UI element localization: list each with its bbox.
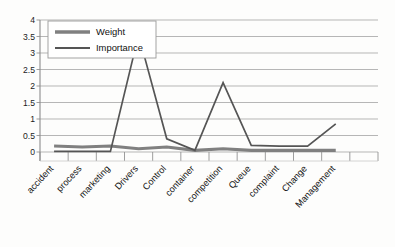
y-axis-tick-label: 4 bbox=[30, 15, 35, 25]
y-axis-tick-label: 1 bbox=[30, 114, 35, 124]
x-axis-category-label: Drivers bbox=[113, 163, 140, 191]
x-axis-category-text: marketing bbox=[77, 164, 112, 200]
legend-label-importance: Importance bbox=[96, 42, 143, 53]
x-axis-category-label: Control bbox=[141, 164, 169, 192]
x-axis-category-text: Queue bbox=[227, 164, 253, 191]
legend-label-weight: Weight bbox=[96, 26, 125, 37]
x-axis-category-label: Queue bbox=[227, 164, 253, 191]
line-chart: 43.532.521.510.50accidentprocessmarketin… bbox=[0, 0, 395, 247]
y-axis-tick-label: 1.5 bbox=[23, 98, 35, 108]
y-axis-tick-label: 2 bbox=[30, 81, 35, 91]
x-axis-category-text: complaint bbox=[247, 163, 281, 199]
x-axis-category-label: marketing bbox=[77, 164, 112, 200]
y-axis-tick-label: 3 bbox=[30, 48, 35, 58]
y-axis-tick-label: 3.5 bbox=[23, 32, 35, 42]
chart-canvas: 43.532.521.510.50accidentprocessmarketin… bbox=[0, 0, 395, 247]
y-axis-tick-label: 0.5 bbox=[23, 131, 35, 141]
x-axis-category-text: accident bbox=[25, 163, 56, 195]
y-axis-tick-label: 0 bbox=[30, 147, 35, 157]
x-axis-category-text: Control bbox=[141, 164, 169, 192]
x-axis-category-label: complaint bbox=[247, 163, 281, 199]
x-axis-category-label: accident bbox=[25, 163, 56, 195]
x-axis-category-text: Drivers bbox=[113, 163, 140, 191]
y-axis-tick-label: 2.5 bbox=[23, 65, 35, 75]
